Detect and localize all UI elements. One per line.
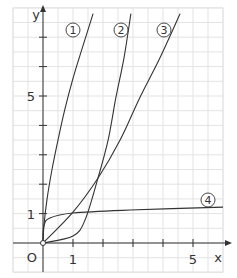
origin-label: O xyxy=(27,250,37,265)
y-tick-5: 5 xyxy=(27,89,35,104)
x-axis-label: x xyxy=(214,250,222,265)
svg-text:4: 4 xyxy=(205,194,212,207)
origin-point xyxy=(41,241,46,246)
x-tick-5: 5 xyxy=(189,252,197,267)
svg-text:1: 1 xyxy=(70,24,77,37)
y-axis-label: y xyxy=(32,7,40,22)
y-tick-1: 1 xyxy=(27,207,35,222)
curve-1 xyxy=(43,14,93,243)
x-tick-1: 1 xyxy=(69,252,77,267)
axes xyxy=(13,5,232,272)
svg-text:3: 3 xyxy=(161,24,168,37)
function-graph: 1515Oxy1234 xyxy=(0,0,237,278)
grid xyxy=(13,8,223,273)
svg-text:2: 2 xyxy=(118,24,125,37)
